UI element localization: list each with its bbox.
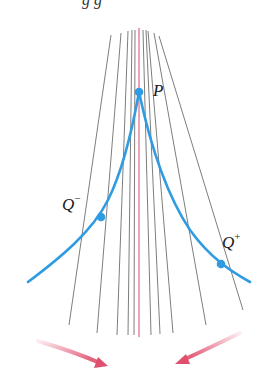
point-Q-plus	[217, 260, 226, 269]
label-P: P	[153, 82, 163, 99]
secant-tangent-diagram: g g P Q− Q+	[0, 0, 267, 375]
label-Q-minus: Q−	[62, 196, 81, 213]
arrow-left-icon	[38, 341, 108, 368]
label-Q-plus-sup: +	[234, 230, 240, 242]
label-Q-plus-base: Q	[222, 233, 234, 252]
arrow-right-icon	[175, 333, 240, 364]
point-Q-minus	[97, 213, 106, 222]
label-Q-plus: Q+	[222, 234, 241, 251]
label-Q-minus-sup: −	[74, 192, 80, 204]
point-P	[135, 88, 144, 97]
label-Q-minus-base: Q	[62, 195, 74, 214]
secant-lines	[69, 30, 243, 335]
cropped-caption-fragment: g g	[82, 0, 102, 9]
